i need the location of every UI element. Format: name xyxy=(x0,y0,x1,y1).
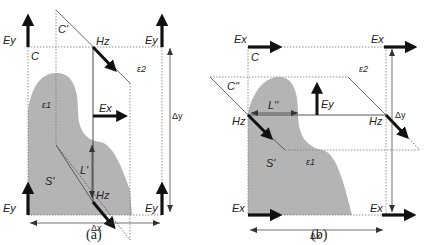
yee-cell-diagram: Ey Ey Ey Ey C C' Hz Hz Ex ε1 ε2 S' L' Δx… xyxy=(0,0,429,245)
label-l-double-prime: L'' xyxy=(268,99,279,111)
label-delta-y: Δy xyxy=(395,110,406,120)
dielectric-region-eps1 xyxy=(28,73,132,215)
label-ey-top-left: Ey xyxy=(3,34,17,46)
label-ey-bottom-right: Ey xyxy=(145,202,159,214)
label-surface-s-prime: S' xyxy=(45,175,55,187)
label-hz-bottom: Hz xyxy=(96,189,110,201)
label-hz-top: Hz xyxy=(96,35,110,47)
label-ex-bottom-right: Ex xyxy=(370,202,383,214)
label-delta-y: Δy xyxy=(172,111,183,121)
label-eps1: ε1 xyxy=(306,157,315,167)
label-ex-center: Ex xyxy=(99,102,112,114)
dielectric-region-eps1 xyxy=(248,77,352,215)
contour-c-double-prime xyxy=(210,77,420,150)
label-contour-c: C xyxy=(251,51,259,63)
label-ex-bottom-left: Ex xyxy=(232,202,245,214)
label-contour-c-double-prime: C'' xyxy=(227,80,240,92)
hz-arrow-top xyxy=(93,47,114,69)
label-contour-c-prime: C' xyxy=(58,23,69,35)
label-l-prime: L' xyxy=(80,164,89,176)
panel-b: Ex Ex Ex Ex C C'' Hz Hz Ey ε1 ε2 S' L'' … xyxy=(210,33,420,243)
label-hz-left: Hz xyxy=(232,115,246,127)
label-ex-top-right: Ex xyxy=(371,33,384,45)
label-hz-right: Hz xyxy=(369,115,383,127)
caption-a: (a) xyxy=(86,227,102,243)
label-ey-bottom-left: Ey xyxy=(3,202,17,214)
label-ex-top-left: Ex xyxy=(234,33,247,45)
label-eps2: ε2 xyxy=(137,64,146,74)
label-surface-s-prime: S' xyxy=(266,157,276,169)
label-ey-top-right: Ey xyxy=(145,34,159,46)
label-eps1: ε1 xyxy=(42,100,51,110)
caption-b: (b) xyxy=(311,227,328,243)
label-ey-center: Ey xyxy=(321,98,335,110)
panel-a: Ey Ey Ey Ey C C' Hz Hz Ex ε1 ε2 S' L' Δx… xyxy=(3,10,183,243)
label-eps2: ε2 xyxy=(359,64,368,74)
label-contour-c: C xyxy=(31,50,39,62)
